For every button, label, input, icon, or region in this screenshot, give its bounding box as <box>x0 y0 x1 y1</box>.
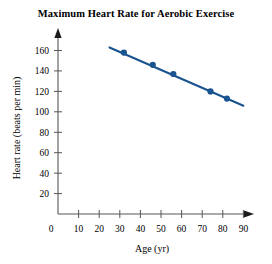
data-point <box>150 62 156 68</box>
x-tick-label: 80 <box>218 224 228 234</box>
x-tick-label: 0 <box>49 224 54 234</box>
y-tick-label: 100 <box>35 107 50 117</box>
x-tick-label: 60 <box>177 224 187 234</box>
x-tick-label: 30 <box>115 224 125 234</box>
y-tick-label: 120 <box>35 87 50 97</box>
data-point <box>170 71 176 77</box>
x-tick-label: 50 <box>156 224 166 234</box>
trend-line <box>110 47 244 105</box>
data-point <box>121 49 127 55</box>
chart-plot-area: 160 140 120 100 80 60 40 20 0 10 20 30 <box>0 0 272 264</box>
x-axis-arrow-icon <box>244 210 254 217</box>
x-tick-label: 20 <box>94 224 104 234</box>
y-tick-label: 160 <box>35 46 50 56</box>
x-tick-label: 90 <box>239 224 249 234</box>
x-axis-title: Age (yr) <box>135 243 169 255</box>
x-tick-label: 40 <box>136 224 146 234</box>
y-tick-label: 80 <box>40 128 50 138</box>
x-tick-label: 10 <box>74 224 84 234</box>
y-axis-tick-labels: 160 140 120 100 80 60 40 20 <box>35 46 50 199</box>
data-point <box>224 95 230 101</box>
data-point <box>207 88 213 94</box>
x-axis-tick-labels: 0 10 20 30 40 50 60 70 80 90 <box>49 224 249 234</box>
x-tick-label: 70 <box>197 224 207 234</box>
y-tick-label: 60 <box>40 148 50 158</box>
y-axis-arrow-icon <box>54 28 61 38</box>
y-tick-label: 20 <box>40 189 50 199</box>
y-tick-label: 40 <box>40 169 50 179</box>
y-tick-label: 140 <box>35 66 50 76</box>
chart-container: Maximum Heart Rate for Aerobic Exercise … <box>0 0 272 264</box>
y-axis-title: Heart rate (beats per min) <box>11 77 23 180</box>
